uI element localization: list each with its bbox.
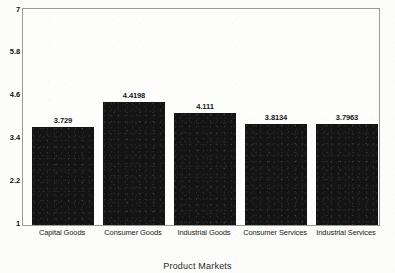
x-axis-label-industrial-services: Industrial Services <box>296 228 395 237</box>
bar-value-label: 4.4198 <box>91 91 177 100</box>
plot-area: 3.729 4.4198 4.111 3.8134 3.7963 <box>22 8 380 226</box>
bar-value-label: 4.111 <box>162 102 248 111</box>
y-axis-tick-label: 3.4 <box>0 133 20 142</box>
y-axis-tick-label: 1 <box>0 219 20 228</box>
bar-value-label: 3.729 <box>20 116 106 125</box>
y-axis-tick-label: 2.2 <box>0 176 20 185</box>
bar-consumer-goods[interactable] <box>103 102 165 225</box>
x-axis-title: Product Markets <box>0 261 395 271</box>
bar-industrial-services[interactable] <box>316 124 378 225</box>
bar-slot: 3.729 <box>32 9 94 225</box>
bar-chart-figure: 7 5.8 4.6 3.4 2.2 1 3.729 4.4198 4.111 3… <box>0 0 395 273</box>
bar-industrial-goods[interactable] <box>174 113 236 225</box>
bar-slot: 4.4198 <box>103 9 165 225</box>
y-axis-tick-label: 7 <box>0 5 20 14</box>
x-axis-category-labels: Capital Goods Consumer Goods Industrial … <box>22 228 380 242</box>
bar-value-label: 3.7963 <box>304 113 390 122</box>
bars-layer: 3.729 4.4198 4.111 3.8134 3.7963 <box>23 9 379 225</box>
bar-slot: 4.111 <box>174 9 236 225</box>
bar-consumer-services[interactable] <box>245 124 307 225</box>
bar-capital-goods[interactable] <box>32 127 94 225</box>
bar-slot: 3.8134 <box>245 9 307 225</box>
y-axis-tick-label: 5.8 <box>0 47 20 56</box>
bar-slot: 3.7963 <box>316 9 378 225</box>
y-axis-tick-label: 4.6 <box>0 90 20 99</box>
